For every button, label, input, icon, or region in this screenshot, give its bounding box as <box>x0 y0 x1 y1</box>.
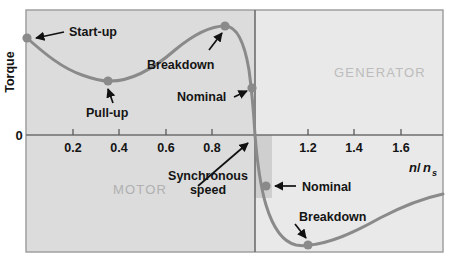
region-label-motor: MOTOR <box>113 182 167 197</box>
y-axis-title: Torque <box>3 51 17 92</box>
x-tick-label-1.2: 1.2 <box>299 141 316 155</box>
marker-nominal-motor <box>247 83 256 92</box>
marker-start-up <box>22 33 31 42</box>
x-axis-title-denominator: n <box>423 160 431 175</box>
x-tick-label-0.2: 0.2 <box>64 141 81 155</box>
chart-canvas: 0.2 0.4 0.6 0.8 1.2 1.4 1.6 0 Torque n /… <box>0 0 456 265</box>
x-axis-title-slash: / <box>417 160 421 175</box>
annotation-pull-up: Pull-up <box>86 106 129 120</box>
torque-speed-chart: 0.2 0.4 0.6 0.8 1.2 1.4 1.6 0 Torque n /… <box>0 0 456 265</box>
annotation-breakdown-generator: Breakdown <box>299 210 366 224</box>
annotation-nominal-motor: Nominal <box>177 90 226 104</box>
region-label-generator: GENERATOR <box>334 65 426 80</box>
marker-nominal-generator <box>261 181 270 190</box>
marker-breakdown-generator <box>303 240 312 249</box>
annotation-sync-speed-line1: Synchronous <box>168 169 248 183</box>
annotation-breakdown-motor: Breakdown <box>147 58 214 72</box>
annotation-start-up: Start-up <box>69 25 117 39</box>
x-tick-label-1.6: 1.6 <box>392 141 409 155</box>
marker-breakdown-motor <box>220 21 229 30</box>
x-tick-label-1.4: 1.4 <box>345 141 362 155</box>
annotation-nominal-generator: Nominal <box>302 180 351 194</box>
marker-pull-up <box>103 76 112 85</box>
x-tick-label-0.4: 0.4 <box>110 141 127 155</box>
x-axis-title-subscript: s <box>432 168 437 178</box>
annotation-sync-speed-line2: speed <box>190 183 226 197</box>
x-tick-label-0.8: 0.8 <box>203 141 220 155</box>
panel-left-background <box>26 10 255 252</box>
x-tick-label-0.6: 0.6 <box>157 141 174 155</box>
x-axis-title-numerator: n <box>409 160 417 175</box>
y-tick-label-zero: 0 <box>15 128 22 143</box>
